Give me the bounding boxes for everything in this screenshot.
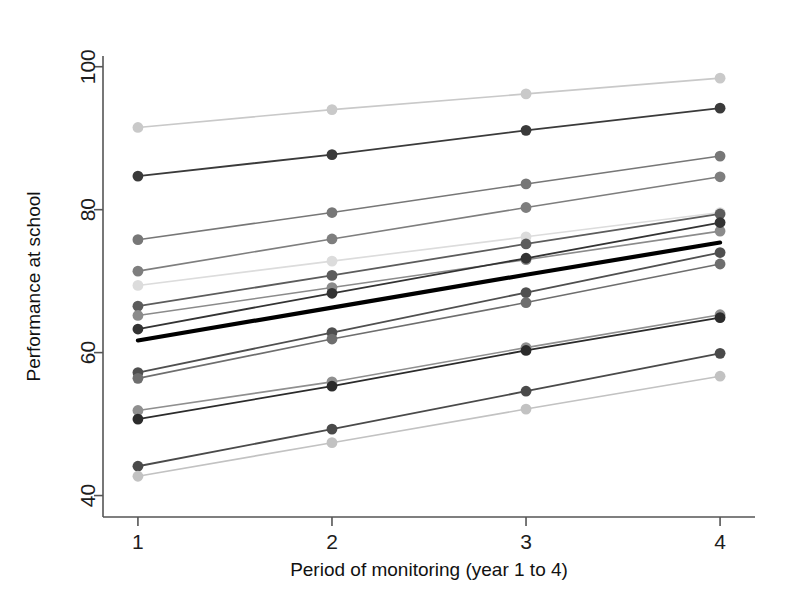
- series-line: [138, 78, 720, 127]
- chart-series: [133, 103, 726, 182]
- y-tick-label: 100: [76, 49, 99, 84]
- series-point: [715, 371, 726, 382]
- series-point: [715, 247, 726, 258]
- x-tick-label: 3: [520, 530, 532, 553]
- figure-panel: 4060801001234Period of monitoring (year …: [0, 0, 794, 609]
- line-chart: 4060801001234Period of monitoring (year …: [0, 0, 794, 609]
- series-point: [133, 373, 144, 384]
- series-point: [715, 259, 726, 270]
- series-point: [327, 234, 338, 245]
- chart-series: [133, 73, 726, 133]
- series-point: [715, 217, 726, 228]
- series-line: [138, 264, 720, 378]
- series-point: [715, 312, 726, 323]
- series-point: [133, 310, 144, 321]
- series-point: [521, 297, 532, 308]
- series-point: [133, 301, 144, 312]
- series-line: [138, 353, 720, 466]
- series-point: [327, 104, 338, 115]
- x-tick-label: 1: [132, 530, 144, 553]
- series-point: [327, 381, 338, 392]
- x-tick-label: 2: [326, 530, 338, 553]
- series-point: [327, 334, 338, 345]
- series-point: [327, 149, 338, 160]
- x-axis-title: Period of monitoring (year 1 to 4): [290, 559, 568, 580]
- series-point: [521, 287, 532, 298]
- series-point: [715, 103, 726, 114]
- series-point: [133, 471, 144, 482]
- series-point: [133, 461, 144, 472]
- series-line: [138, 315, 720, 411]
- series-point: [521, 125, 532, 136]
- series-point: [521, 253, 532, 264]
- series-point: [327, 437, 338, 448]
- series-point: [521, 239, 532, 250]
- series-point: [327, 207, 338, 218]
- series-point: [327, 288, 338, 299]
- series-point: [521, 404, 532, 415]
- series-point: [715, 171, 726, 182]
- series-point: [715, 151, 726, 162]
- y-tick-label: 80: [76, 198, 99, 221]
- series-line: [138, 231, 720, 315]
- series-point: [133, 280, 144, 291]
- chart-series: [133, 151, 726, 245]
- series-line: [138, 318, 720, 419]
- y-tick-label: 40: [76, 484, 99, 507]
- chart-series: [133, 371, 726, 482]
- series-point: [521, 88, 532, 99]
- y-tick-label: 60: [76, 341, 99, 364]
- chart-series: [133, 226, 726, 321]
- chart-series: [133, 348, 726, 472]
- x-tick-label: 4: [714, 530, 726, 553]
- series-point: [521, 345, 532, 356]
- series-point: [715, 73, 726, 84]
- series-point: [133, 171, 144, 182]
- y-axis-title: Performance at school: [23, 191, 44, 381]
- series-point: [133, 266, 144, 277]
- chart-labels-layer: 4060801001234Period of monitoring (year …: [23, 49, 726, 580]
- series-point: [327, 424, 338, 435]
- chart-series: [133, 217, 726, 334]
- series-line: [138, 108, 720, 176]
- series-point: [133, 234, 144, 245]
- series-point: [715, 348, 726, 359]
- chart-series: [133, 171, 726, 276]
- series-point: [521, 179, 532, 190]
- series-point: [521, 386, 532, 397]
- chart-series-layer: [133, 73, 726, 482]
- series-point: [521, 202, 532, 213]
- series-line: [138, 376, 720, 476]
- series-point: [133, 414, 144, 425]
- chart-series: [133, 207, 726, 291]
- series-point: [133, 122, 144, 133]
- series-point: [327, 256, 338, 267]
- series-point: [133, 324, 144, 335]
- series-point: [327, 270, 338, 281]
- chart-series: [133, 247, 726, 378]
